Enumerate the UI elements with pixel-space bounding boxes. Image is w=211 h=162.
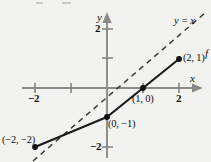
y-tick-label-2: 2 [95, 23, 100, 34]
x-tick-label-2: 2 [176, 93, 181, 104]
figure-container: y x 2 −2 −2 2 y = x (2, 1) f (1, 0) (0, … [0, 0, 211, 162]
y-axis-arrowhead [102, 12, 111, 23]
x-axis-label: x [190, 73, 195, 84]
identity-line-label: y = x [174, 16, 195, 27]
point-label-neg2-neg2: (−2, −2) [2, 135, 35, 146]
point-label-2-1: (2, 1) [183, 53, 205, 64]
axis-lines [22, 12, 203, 158]
point-marker-2-1 [176, 56, 182, 62]
point-label-1-0: (1, 0) [132, 94, 154, 105]
point-marker-1-0 [140, 85, 146, 91]
function-name-label: f [205, 48, 208, 59]
point-label-0-neg1: (0, −1) [108, 119, 135, 130]
x-axis-arrowhead [192, 83, 203, 92]
y-tick-label-neg2: −2 [90, 141, 101, 152]
x-tick-label-neg2: −2 [28, 93, 39, 104]
